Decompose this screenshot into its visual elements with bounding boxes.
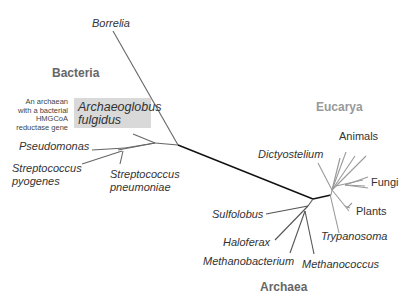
eucarya-branches [318, 152, 368, 233]
taxon-borrelia: Borrelia [92, 17, 130, 29]
taxon-haloferax: Haloferax [223, 236, 270, 248]
taxon-plants: Plants [356, 205, 387, 217]
archaea-branches [266, 199, 314, 254]
taxon-streptococcus-pneumoniae-2: pneumoniae [110, 181, 171, 193]
domain-label-eucarya: Eucarya [316, 100, 363, 114]
domain-label-bacteria: Bacteria [52, 66, 99, 80]
taxon-animals: Animals [339, 130, 378, 142]
taxon-streptococcus-pyogenes-2: pyogenes [12, 175, 60, 187]
taxon-methanococcus: Methanococcus [302, 258, 379, 270]
annotation-note: An archaean with a bacterial HMGCoA redu… [16, 98, 68, 132]
taxon-streptococcus-pyogenes-1: Streptococcus [12, 162, 82, 174]
taxon-trypanosoma: Trypanosoma [321, 230, 387, 242]
taxon-sulfolobus: Sulfolobus [212, 208, 263, 220]
taxon-archaeoglobus-1: Archaeoglobus [78, 100, 161, 114]
taxon-fungi: Fungi [371, 176, 399, 188]
taxon-streptococcus-pneumoniae-1: Streptococcus [110, 168, 180, 180]
taxon-pseudomonas: Pseudomonas [19, 140, 89, 152]
domain-label-archaea: Archaea [260, 280, 307, 294]
taxon-methanobacterium: Methanobacterium [203, 255, 294, 267]
taxon-archaeoglobus-2: fulgidus [78, 113, 121, 127]
taxon-dictyostelium: Dictyostelium [258, 148, 323, 160]
